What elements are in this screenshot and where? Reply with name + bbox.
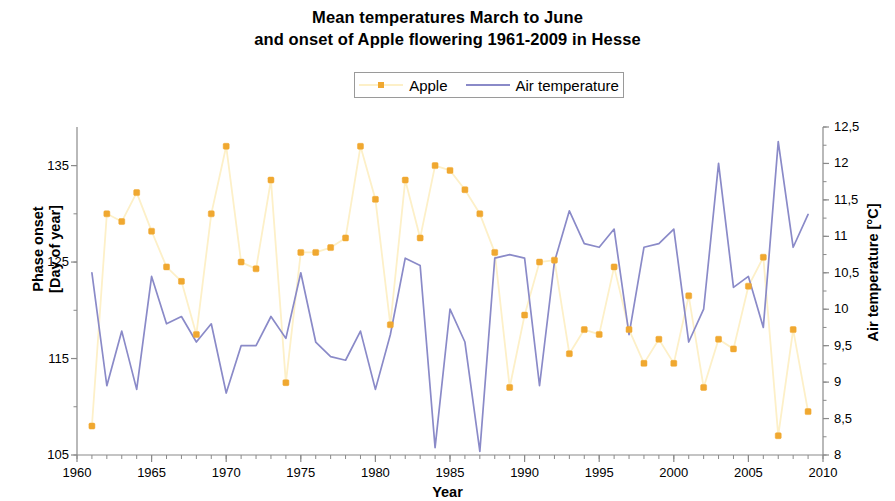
x-axis-title: Year bbox=[0, 484, 895, 501]
y-axis-left-tick-label: 125 bbox=[31, 254, 69, 269]
series-marker-apple bbox=[775, 433, 781, 439]
series-marker-apple bbox=[238, 259, 244, 265]
legend-swatch-apple-icon bbox=[359, 78, 403, 92]
y-axis-right-tick-label: 11 bbox=[834, 228, 874, 243]
x-axis-tick-label: 1995 bbox=[569, 465, 629, 480]
x-axis-tick-label: 1965 bbox=[122, 465, 182, 480]
series-marker-apple bbox=[164, 264, 170, 270]
series-marker-apple bbox=[462, 187, 468, 193]
x-axis-tick-label: 1985 bbox=[420, 465, 480, 480]
series-marker-apple bbox=[268, 177, 274, 183]
y-axis-right-tick-label: 10,5 bbox=[834, 265, 874, 280]
series-marker-apple bbox=[387, 322, 393, 328]
y-axis-left-title: Phase onset [Day of year] bbox=[30, 169, 64, 329]
series-marker-apple bbox=[596, 331, 602, 337]
series-marker-apple bbox=[208, 211, 214, 217]
chart-title: Mean temperatures March to June and onse… bbox=[0, 6, 895, 50]
legend-swatch-air-temperature-icon bbox=[466, 78, 510, 92]
series-marker-apple bbox=[417, 235, 423, 241]
series-marker-apple bbox=[551, 257, 557, 263]
series-marker-apple bbox=[686, 293, 692, 299]
legend-item-air-temperature[interactable]: Air temperature bbox=[457, 77, 628, 94]
series-line-apple bbox=[92, 146, 808, 435]
y-axis-left-title-line-2: [Day of year] bbox=[47, 169, 64, 329]
series-marker-apple bbox=[701, 384, 707, 390]
chart-title-line-2: and onset of Apple flowering 1961-2009 i… bbox=[0, 28, 895, 50]
x-axis-tick-label: 1980 bbox=[345, 465, 405, 480]
series-line-air-temperature bbox=[92, 142, 808, 452]
x-axis-tick-label: 2010 bbox=[793, 465, 853, 480]
series-marker-apple bbox=[298, 249, 304, 255]
series-marker-apple bbox=[253, 266, 259, 272]
y-axis-right-tick-label: 8,5 bbox=[834, 411, 874, 426]
chart-figure: Mean temperatures March to June and onse… bbox=[0, 0, 895, 501]
series-marker-apple bbox=[104, 211, 110, 217]
series-marker-apple bbox=[537, 259, 543, 265]
legend-item-apple[interactable]: Apple bbox=[350, 77, 456, 94]
x-axis-tick-label: 2000 bbox=[644, 465, 704, 480]
series-marker-apple bbox=[477, 211, 483, 217]
y-axis-left-tick-label: 115 bbox=[31, 351, 69, 366]
x-axis-tick-label: 2005 bbox=[718, 465, 778, 480]
series-marker-apple bbox=[223, 143, 229, 149]
x-axis-tick-label: 1990 bbox=[495, 465, 555, 480]
y-axis-left-tick-label: 135 bbox=[31, 158, 69, 173]
x-axis-tick-label: 1960 bbox=[47, 465, 107, 480]
series-marker-apple bbox=[790, 327, 796, 333]
series-marker-apple bbox=[134, 190, 140, 196]
series-marker-apple bbox=[119, 219, 125, 225]
series-marker-apple bbox=[507, 384, 513, 390]
series-marker-apple bbox=[626, 327, 632, 333]
y-axis-left-title-line-1: Phase onset bbox=[30, 169, 47, 329]
series-marker-apple bbox=[178, 278, 184, 284]
series-marker-apple bbox=[447, 167, 453, 173]
y-axis-left-tick-label: 105 bbox=[31, 447, 69, 462]
series-marker-apple bbox=[611, 264, 617, 270]
series-marker-apple bbox=[671, 360, 677, 366]
legend-label-apple: Apple bbox=[409, 77, 447, 94]
x-axis-tick-label: 1970 bbox=[196, 465, 256, 480]
y-axis-right-tick-label: 12,5 bbox=[834, 119, 874, 134]
y-axis-right-tick-label: 9,5 bbox=[834, 338, 874, 353]
y-axis-right-tick-label: 11,5 bbox=[834, 192, 874, 207]
legend-label-air-temperature: Air temperature bbox=[516, 77, 619, 94]
y-axis-right-tick-label: 9 bbox=[834, 374, 874, 389]
series-marker-apple bbox=[149, 228, 155, 234]
series-marker-apple bbox=[357, 143, 363, 149]
series-marker-apple bbox=[402, 177, 408, 183]
series-marker-apple bbox=[372, 196, 378, 202]
series-marker-apple bbox=[730, 346, 736, 352]
series-marker-apple bbox=[760, 254, 766, 260]
series-marker-apple bbox=[193, 331, 199, 337]
series-marker-apple bbox=[522, 312, 528, 318]
series-marker-apple bbox=[641, 360, 647, 366]
x-axis-tick-label: 1975 bbox=[271, 465, 331, 480]
y-axis-right-tick-label: 12 bbox=[834, 155, 874, 170]
series-marker-apple bbox=[566, 351, 572, 357]
chart-legend: Apple Air temperature bbox=[354, 72, 624, 98]
series-marker-apple bbox=[492, 249, 498, 255]
series-marker-apple bbox=[343, 235, 349, 241]
series-marker-apple bbox=[745, 283, 751, 289]
series-marker-apple bbox=[328, 245, 334, 251]
series-marker-apple bbox=[313, 249, 319, 255]
series-marker-apple bbox=[89, 423, 95, 429]
y-axis-right-tick-label: 10 bbox=[834, 301, 874, 316]
series-marker-apple bbox=[581, 327, 587, 333]
series-marker-apple bbox=[805, 409, 811, 415]
series-marker-apple bbox=[716, 336, 722, 342]
series-marker-apple bbox=[656, 336, 662, 342]
series-marker-apple bbox=[432, 163, 438, 169]
y-axis-right-tick-label: 8 bbox=[834, 447, 874, 462]
chart-title-line-1: Mean temperatures March to June bbox=[0, 6, 895, 28]
series-marker-apple bbox=[283, 380, 289, 386]
